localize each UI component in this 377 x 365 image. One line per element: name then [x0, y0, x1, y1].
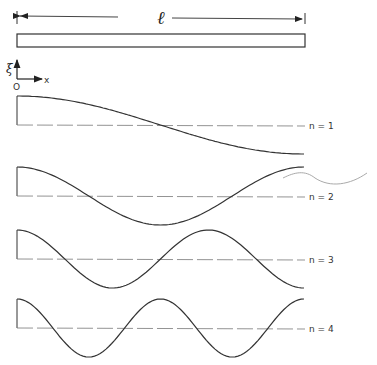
mode-label: n = 3	[309, 255, 334, 265]
origin-label: O	[13, 82, 20, 92]
mode-label: n = 4	[309, 324, 334, 334]
rod	[17, 34, 305, 47]
mode-3: n = 3	[17, 230, 334, 288]
mode-4: n = 4	[17, 299, 334, 357]
mode-label: n = 1	[309, 121, 334, 131]
stray-mark	[283, 173, 367, 184]
axis-indicator: ξ x O	[6, 60, 50, 92]
x-label: x	[44, 75, 50, 85]
longitudinal-modes-diagram: ℓ ξ x O n = 1n = 2n = 3n = 4	[0, 0, 377, 365]
length-dimension: ℓ	[17, 7, 305, 28]
mode-label: n = 2	[309, 192, 334, 202]
length-label: ℓ	[157, 7, 165, 28]
mode-2: n = 2	[17, 167, 334, 225]
mode-1: n = 1	[17, 96, 334, 154]
xi-label: ξ	[6, 62, 14, 76]
